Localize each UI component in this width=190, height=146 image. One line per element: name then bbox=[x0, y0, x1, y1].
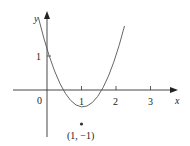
x-tick-label-1: 1 bbox=[79, 96, 84, 107]
x-tick-label-2: 2 bbox=[113, 96, 118, 107]
x-axis-label: x bbox=[174, 95, 180, 106]
vertex-point bbox=[80, 122, 83, 125]
x-tick-label-3: 3 bbox=[148, 96, 153, 107]
x-axis-arrow-icon bbox=[170, 87, 178, 93]
origin-label: 0 bbox=[37, 95, 42, 106]
parabola-curve bbox=[38, 18, 124, 107]
y-tick-label-1: 1 bbox=[36, 51, 41, 62]
chart: y x 0 1 2 3 1 (1, −1) bbox=[0, 0, 190, 146]
y-axis-arrow-icon bbox=[44, 11, 50, 19]
vertex-label: (1, −1) bbox=[67, 130, 94, 142]
y-axis-label: y bbox=[33, 13, 39, 24]
